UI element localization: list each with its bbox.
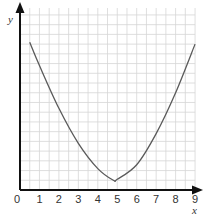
- x-tick-label: 7: [153, 193, 159, 205]
- chart: 0123456789 y x: [0, 0, 205, 216]
- y-axis-label: y: [7, 13, 13, 25]
- y-axis-arrow-icon: [16, 2, 25, 13]
- x-tick-label: 8: [173, 193, 179, 205]
- x-tick-labels: 0123456789: [14, 193, 198, 205]
- x-tick-label: 3: [75, 193, 81, 205]
- x-tick-label: 0: [14, 193, 20, 205]
- x-tick-label: 6: [134, 193, 140, 205]
- grid: [20, 8, 195, 190]
- x-tick-label: 1: [36, 193, 42, 205]
- x-tick-label: 5: [114, 193, 120, 205]
- x-tick-label: 4: [95, 193, 101, 205]
- x-axis-label: x: [191, 204, 197, 216]
- x-tick-label: 2: [56, 193, 62, 205]
